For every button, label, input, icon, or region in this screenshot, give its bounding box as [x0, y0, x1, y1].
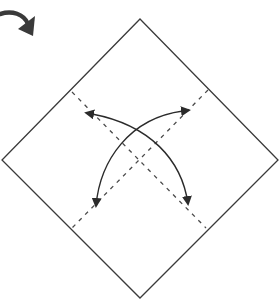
turn-over-arrow-icon	[0, 12, 35, 36]
origami-diagram	[0, 0, 279, 300]
paper-square	[2, 19, 278, 298]
